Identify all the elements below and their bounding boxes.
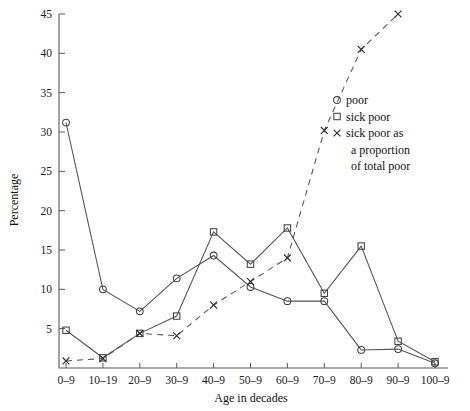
x-tick-label: 90–9 [387, 374, 410, 386]
legend-continuation-2: of total poor [351, 159, 410, 173]
chart-figure: 51015202530354045 0–910–1920–930–940–950… [0, 0, 470, 411]
x-axis-ticks [66, 363, 435, 368]
data-point-x [395, 11, 402, 18]
line-chart-svg: 51015202530354045 0–910–1920–930–940–950… [0, 0, 470, 411]
chart-series-layer [63, 11, 439, 367]
data-point-circle [334, 97, 341, 104]
series-3 [63, 11, 402, 365]
y-tick-label: 5 [46, 323, 52, 335]
series-2 [63, 225, 438, 365]
legend-label-1: poor [346, 93, 368, 107]
y-tick-label: 35 [41, 87, 53, 99]
x-tick-label: 70–9 [313, 374, 336, 386]
data-point-x [321, 127, 328, 134]
y-tick-label: 10 [41, 283, 53, 295]
legend-label-3: sick poor as [346, 126, 404, 140]
y-tick-label: 30 [41, 126, 53, 138]
data-point-x [334, 130, 341, 137]
legend-label-2: sick poor [346, 110, 390, 124]
x-tick-label: 100–9 [421, 374, 450, 386]
x-tick-label: 20–9 [128, 374, 151, 386]
y-tick-label: 45 [41, 8, 53, 20]
data-point-square [334, 113, 340, 119]
x-tick-label: 60–9 [276, 374, 299, 386]
y-axis-title: Percentage [7, 174, 21, 227]
data-point-x [284, 254, 291, 261]
y-tick-label: 20 [41, 205, 53, 217]
x-tick-label: 80–9 [350, 374, 373, 386]
x-tick-label: 50–9 [239, 374, 262, 386]
x-tick-label: 40–9 [202, 374, 225, 386]
y-tick-label: 25 [41, 165, 53, 177]
series-line [66, 228, 435, 362]
chart-axes [59, 14, 448, 368]
x-tick-label: 10–19 [89, 374, 118, 386]
x-tick-label: 30–9 [165, 374, 188, 386]
series-line [66, 14, 398, 361]
data-point-x [173, 332, 180, 339]
data-point-x [136, 330, 143, 337]
data-point-x [358, 46, 365, 53]
chart-legend: poorsick poorsick poor asa proportionof … [334, 93, 411, 173]
data-point-x [210, 302, 217, 309]
x-axis-tick-labels: 0–910–1920–930–940–950–960–970–980–990–9… [57, 374, 449, 386]
y-tick-label: 15 [41, 244, 53, 256]
x-axis-title: Age in decades [214, 391, 288, 405]
legend-continuation-1: a proportion [351, 143, 410, 157]
x-tick-label: 0–9 [57, 374, 75, 386]
y-tick-label: 40 [41, 47, 53, 59]
y-axis-tick-labels: 51015202530354045 [41, 8, 53, 335]
y-axis-ticks [59, 14, 65, 329]
